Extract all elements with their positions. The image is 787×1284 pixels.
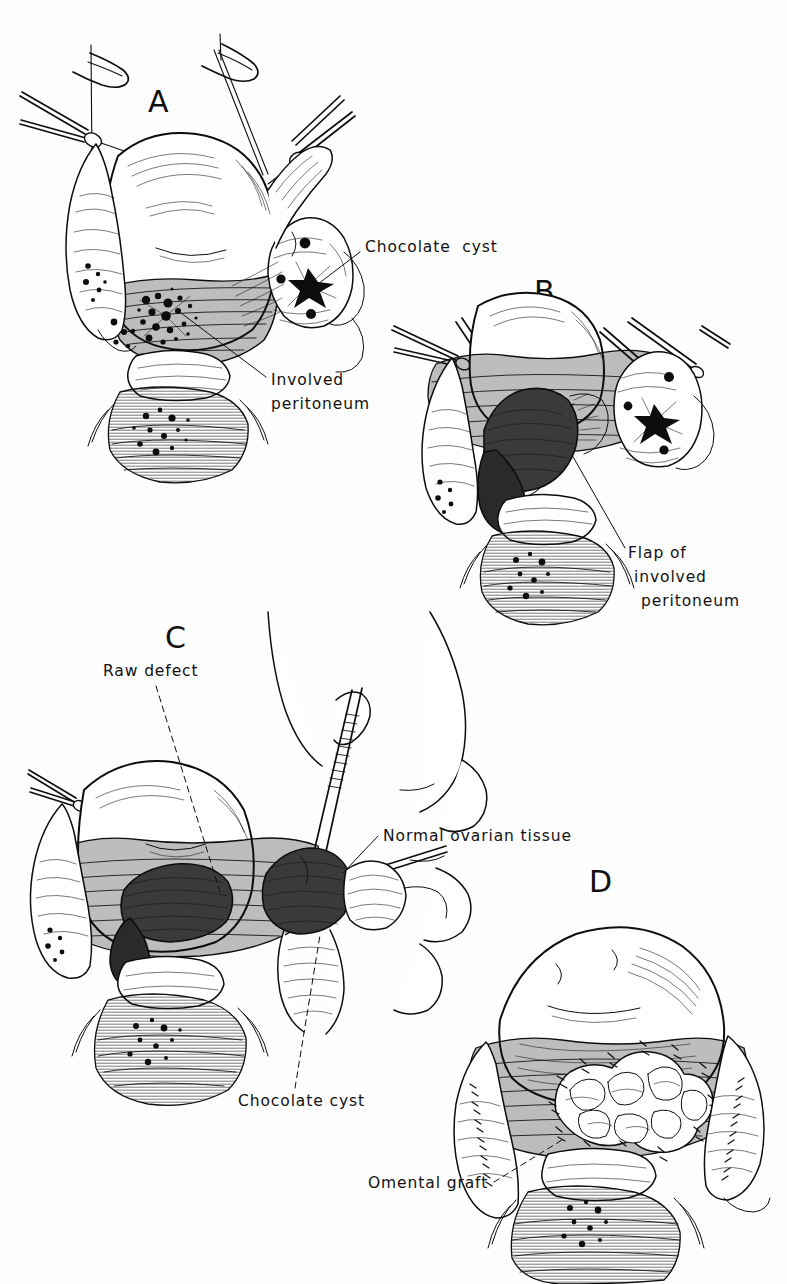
label-text-chocolate-cyst-c: Chocolate cyst xyxy=(238,1092,365,1110)
medical-illustration-svg: A xyxy=(0,0,787,1284)
label-text-chocolate-cyst-a: Chocolate cyst xyxy=(365,238,498,256)
label-text-normal-ovarian-tissue: Normal ovarian tissue xyxy=(383,827,572,845)
panel-letter-a: A xyxy=(148,84,169,119)
label-text-involved-peritoneum-line2: peritoneum xyxy=(271,395,370,413)
label-text-flap-line1: Flap of xyxy=(628,544,687,562)
panel-letter-d: D xyxy=(589,864,612,899)
cul-de-sac-c xyxy=(95,994,247,1105)
label-text-involved-peritoneum-line1: Involved xyxy=(271,371,344,389)
label-text-omental-graft: Omental graft xyxy=(368,1174,488,1192)
cul-de-sac-b xyxy=(480,531,614,625)
figure-root: A xyxy=(0,0,787,1284)
label-text-flap-line3: peritoneum xyxy=(641,592,740,610)
normal-ovarian-tissue-c xyxy=(344,861,406,930)
label-text-raw-defect: Raw defect xyxy=(103,662,199,680)
label-text-flap-line2: involved xyxy=(634,568,707,586)
panel-letter-c: C xyxy=(165,620,186,655)
